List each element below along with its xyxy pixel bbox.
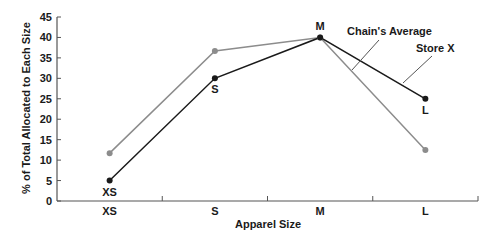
y-axis: 051015202530354045 (40, 11, 61, 207)
chain-average-callout-label: Chain's Average (347, 25, 432, 37)
y-tick-label: 25 (40, 93, 52, 105)
point-label: L (422, 104, 429, 116)
store-x-callout-label: Store X (416, 42, 455, 54)
callouts: Chain's Average Store X (347, 25, 455, 83)
data-point (212, 75, 218, 81)
data-point (422, 147, 428, 153)
x-tick-label: S (211, 205, 218, 217)
data-point (422, 96, 428, 102)
data-point (107, 150, 113, 156)
y-tick-label: 30 (40, 72, 52, 84)
y-tick-label: 20 (40, 113, 52, 125)
chain-average-callout-line (352, 40, 379, 70)
point-label: XS (102, 186, 117, 198)
point-label: M (316, 20, 325, 32)
x-axis-title: Apparel Size (235, 218, 301, 230)
data-point (107, 178, 113, 184)
y-tick-label: 0 (46, 195, 52, 207)
x-axis: XSSML (57, 196, 478, 217)
point-label: S (211, 83, 218, 95)
y-axis-title: % of Total Allocated to Each Size (20, 22, 32, 194)
x-tick-label: M (316, 205, 325, 217)
y-tick-label: 10 (40, 154, 52, 166)
y-tick-label: 5 (46, 175, 52, 187)
series-group: XSSML (102, 20, 429, 197)
data-point (317, 34, 323, 40)
store-x-callout-line (403, 56, 432, 83)
series-line-0 (110, 37, 426, 153)
x-tick-label: L (422, 205, 429, 217)
y-tick-label: 40 (40, 31, 52, 43)
x-tick-label: XS (102, 205, 117, 217)
y-tick-label: 45 (40, 11, 52, 23)
y-tick-label: 35 (40, 52, 52, 64)
series-line-1 (110, 37, 426, 180)
line-chart: 051015202530354045 XSSML % of Total Allo… (0, 0, 498, 238)
y-tick-label: 15 (40, 134, 52, 146)
data-point (212, 48, 218, 54)
